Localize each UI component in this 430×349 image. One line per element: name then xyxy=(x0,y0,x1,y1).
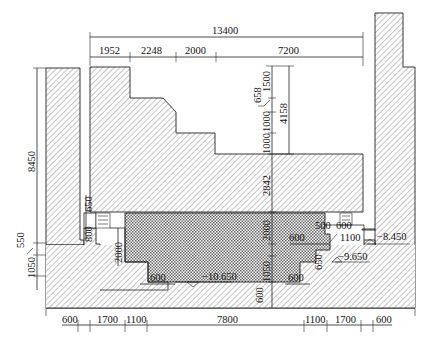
dim-1000-upper: 1000 xyxy=(261,111,272,132)
dim-600-bottom: 600 xyxy=(254,287,265,303)
dim-bottom-600-left: 600 xyxy=(62,314,78,325)
dim-658: 658 xyxy=(252,87,263,103)
dim-2000: 2000 xyxy=(185,45,206,56)
elevation-10650: −10.650 xyxy=(202,271,237,282)
dim-bottom-1700-left: 1700 xyxy=(97,314,118,325)
dim-1050-left: 1050 xyxy=(26,257,37,278)
dim-1000-lower: 1000 xyxy=(261,133,272,154)
dim-bottom-600-right: 600 xyxy=(376,314,392,325)
dim-bottom-1100-right: 1100 xyxy=(305,314,326,325)
left-retaining-wall xyxy=(46,68,84,245)
section-drawing: 13400 1952 2248 2000 7200 1500 658 1000 … xyxy=(0,0,430,349)
elevation-8450: −8.450 xyxy=(377,231,407,242)
dim-500: 500 xyxy=(315,220,331,231)
dim-600-left-step: 600 xyxy=(150,272,166,283)
dim-8450: 8450 xyxy=(26,151,37,172)
dim-bottom-7800: 7800 xyxy=(217,314,238,325)
dim-800: 800 xyxy=(83,226,94,242)
dim-1952: 1952 xyxy=(99,45,120,56)
dim-650-left: 650 xyxy=(83,196,94,212)
dim-550: 550 xyxy=(15,232,26,248)
dim-2000-center: 2000 xyxy=(261,220,272,241)
upper-structure xyxy=(90,67,363,212)
dim-600-top: 600 xyxy=(336,220,352,231)
dim-bottom-1700-right: 1700 xyxy=(335,314,356,325)
dim-overall-13400: 13400 xyxy=(212,25,238,36)
dim-7200: 7200 xyxy=(278,45,299,56)
top-dimensions: 13400 1952 2248 2000 7200 xyxy=(90,25,363,66)
dim-2000-left: 2000 xyxy=(113,242,124,263)
dim-4158: 4158 xyxy=(278,103,289,124)
dim-1100-right: 1100 xyxy=(340,232,361,243)
dim-bottom-1100-left: 1100 xyxy=(126,314,147,325)
dim-2248: 2248 xyxy=(141,45,162,56)
dim-650-right: 650 xyxy=(313,254,324,270)
dim-600-mid: 600 xyxy=(289,232,305,243)
dim-2842: 2842 xyxy=(261,175,272,196)
elevation-9650: −9.650 xyxy=(338,251,368,262)
dim-600-right-step: 600 xyxy=(288,272,304,283)
dim-1050-center: 1050 xyxy=(261,261,272,282)
bottom-dimensions: 600 1700 1100 7800 1100 1700 600 xyxy=(46,308,415,332)
